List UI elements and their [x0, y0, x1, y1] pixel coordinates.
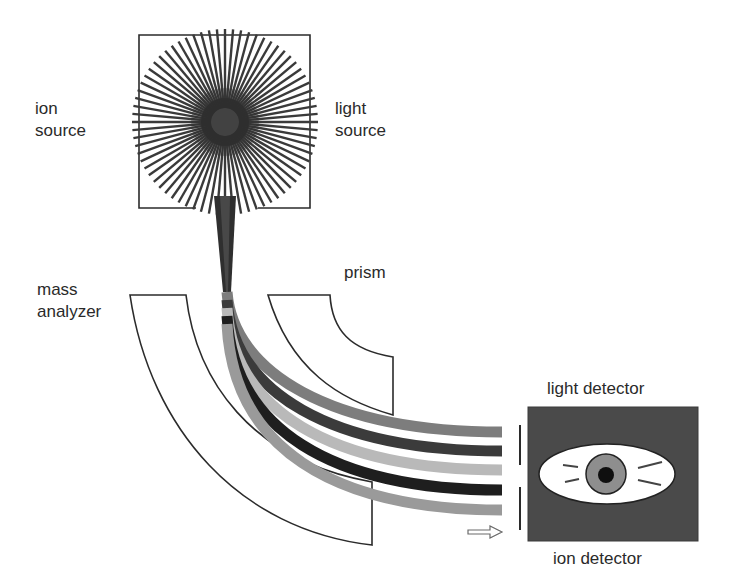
ion-source-label-line1: ion	[35, 98, 86, 120]
light-source-label: light source	[335, 98, 386, 142]
eye-icon	[539, 444, 675, 504]
ion-detector-label-text: ion detector	[553, 548, 642, 570]
detector-box	[528, 407, 698, 541]
ion-detector-label: ion detector	[553, 548, 642, 570]
mass-analyzer-label-line1: mass	[37, 279, 101, 301]
light-detector-label-text: light detector	[547, 378, 644, 400]
mass-analyzer-label: mass analyzer	[37, 279, 101, 323]
hollow-right-arrow-icon	[468, 526, 502, 538]
ion-source-label-line2: source	[35, 120, 86, 142]
prism-label-text: prism	[344, 262, 386, 284]
mass-analyzer-label-line2: analyzer	[37, 301, 101, 323]
source-box	[132, 29, 318, 215]
light-source-label-line2: source	[335, 120, 386, 142]
beam-group	[227, 292, 502, 510]
light-detector-label: light detector	[547, 378, 644, 400]
prism-label: prism	[344, 262, 386, 284]
light-source-label-line1: light	[335, 98, 386, 120]
mass-spectrometer-diagram	[0, 0, 733, 586]
ion-source-label: ion source	[35, 98, 86, 142]
